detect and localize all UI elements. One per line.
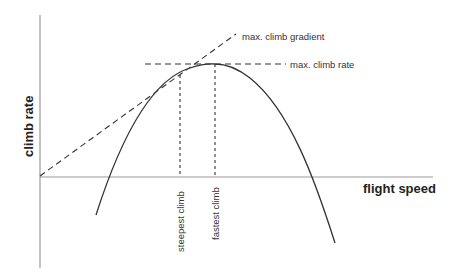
max-climb-gradient-label: max. climb gradient	[242, 31, 325, 42]
steepest-climb-label: steepest climb	[175, 191, 186, 252]
x-axis-label: flight speed	[363, 181, 436, 196]
max-climb-gradient-line	[40, 34, 236, 176]
fastest-climb-label: fastest climb	[210, 187, 221, 240]
max-climb-rate-label: max. climb rate	[290, 59, 354, 70]
climb-performance-diagram: max. climb gradient max. climb rate stee…	[0, 0, 461, 279]
y-axis-label: climb rate	[21, 96, 36, 157]
